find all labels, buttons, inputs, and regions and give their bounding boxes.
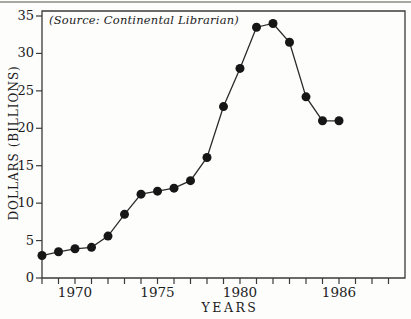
data-point-1969 (54, 247, 63, 256)
line-chart: (Source: Continental Librarian) DOLLARS … (0, 0, 411, 319)
x-tick-label-1986: 1986 (317, 285, 361, 299)
x-axis-title: YEARS (130, 300, 330, 315)
data-point-1977 (186, 176, 195, 185)
data-point-1981 (252, 23, 261, 32)
y-tick-label-25: 25 (6, 84, 34, 98)
x-tick-label-1975: 1975 (136, 285, 180, 299)
data-point-1983 (285, 38, 294, 47)
x-tick-label-1980: 1980 (218, 285, 262, 299)
data-point-1974 (137, 190, 146, 199)
data-point-1982 (269, 19, 278, 28)
source-note: (Source: Continental Librarian) (49, 13, 239, 27)
y-tick-label-5: 5 (6, 234, 34, 248)
data-point-1973 (120, 210, 129, 219)
data-point-1975 (153, 187, 162, 196)
x-tick-label-1970: 1970 (53, 285, 97, 299)
data-point-1976 (170, 184, 179, 193)
data-point-1978 (203, 153, 212, 162)
data-point-1986 (335, 116, 344, 125)
y-tick-label-15: 15 (6, 159, 34, 173)
data-point-1970 (71, 244, 80, 253)
data-series-line (42, 23, 339, 255)
y-tick-label-35: 35 (6, 9, 34, 23)
data-point-1972 (104, 232, 113, 241)
data-point-1980 (236, 64, 245, 73)
y-tick-label-0: 0 (6, 271, 34, 285)
data-point-1984 (302, 92, 311, 101)
data-point-1971 (87, 243, 96, 252)
data-point-1968 (38, 251, 47, 260)
data-point-1985 (318, 116, 327, 125)
plot-svg (0, 0, 411, 319)
y-tick-label-10: 10 (6, 196, 34, 210)
y-tick-label-20: 20 (6, 121, 34, 135)
data-point-1979 (219, 102, 228, 111)
y-tick-label-30: 30 (6, 46, 34, 60)
chart-page: (Source: Continental Librarian) DOLLARS … (0, 0, 411, 319)
plot-frame (42, 11, 405, 278)
